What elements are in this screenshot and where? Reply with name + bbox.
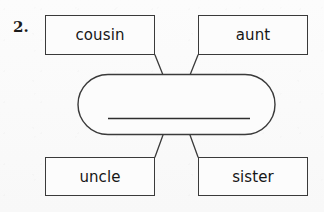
connector-line-aunt: [190, 55, 198, 75]
word-box-aunt-label: aunt: [236, 26, 271, 44]
word-box-uncle-label: uncle: [79, 168, 120, 186]
word-box-uncle[interactable]: uncle: [45, 157, 155, 196]
word-box-sister[interactable]: sister: [198, 157, 308, 196]
center-answer-shape[interactable]: [78, 75, 275, 135]
word-box-cousin[interactable]: cousin: [45, 15, 155, 55]
item-number: 2.: [13, 20, 29, 35]
connector-line-uncle: [155, 135, 163, 157]
connector-line-sister: [190, 135, 198, 157]
word-box-sister-label: sister: [232, 168, 274, 186]
word-box-cousin-label: cousin: [75, 26, 124, 44]
connector-line-cousin: [155, 55, 163, 75]
worksheet-diagram: 2. cousin aunt uncle sister: [0, 0, 324, 212]
word-box-aunt[interactable]: aunt: [198, 15, 308, 55]
